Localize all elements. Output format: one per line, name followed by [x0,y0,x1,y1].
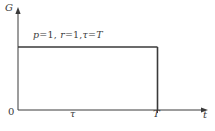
origin-label: 0 [8,107,14,117]
figure-canvas: G t 0 τ T p=1, r=1,τ=T [0,0,215,131]
param-p-value: =1, [39,29,57,40]
param-r-value: =1, [65,29,83,40]
x-tick-label-tau: τ [70,109,75,119]
plot-svg [0,0,215,131]
param-tau-eq: = [88,29,96,40]
param-tau-value: T [96,29,103,40]
y-axis-arrowhead [15,7,20,14]
x-axis-label: t [203,110,207,120]
x-tick-label-T: T [153,109,160,119]
parameter-annotation: p=1, r=1,τ=T [33,30,103,40]
y-axis-label: G [5,3,13,13]
